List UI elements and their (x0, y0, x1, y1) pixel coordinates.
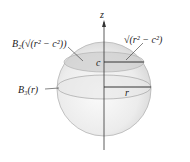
sphere-figure: z B₂(√(r² − c²)) √(r² − c²) c B₃(r) r (0, 0, 190, 162)
z-axis-label: z (99, 9, 104, 20)
cap-radius-label: √(r² − c²) (124, 34, 163, 46)
sphere-diagram: z B₂(√(r² − c²)) √(r² − c²) c B₃(r) r (0, 0, 190, 162)
z-axis-arrow-icon (102, 20, 106, 27)
height-label: c (96, 57, 101, 68)
radius-label: r (125, 87, 129, 98)
cap-disk-label: B₂(√(r² − c²)) (12, 38, 67, 50)
equator-disk-label: B₃(r) (18, 84, 39, 96)
